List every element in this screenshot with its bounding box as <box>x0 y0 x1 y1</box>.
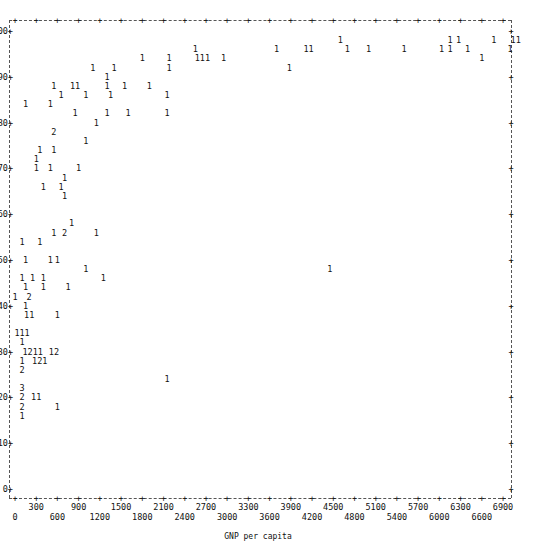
x-tick-mark-bottom: + <box>309 494 314 503</box>
x-tick-mark-top: + <box>331 16 336 25</box>
x-tick-label: 1500 <box>111 503 131 512</box>
data-point: 1 <box>20 237 25 246</box>
x-tick-mark-bottom: + <box>97 494 102 503</box>
data-point: 1 <box>41 182 46 191</box>
x-tick-mark-bottom: + <box>140 494 145 503</box>
data-point: 1 <box>164 109 169 118</box>
data-point: 1 <box>366 45 371 54</box>
data-point: 121 <box>32 356 47 365</box>
x-tick-label: 3900 <box>281 503 301 512</box>
data-point: 11 <box>70 81 80 90</box>
data-point: 1 <box>122 81 127 90</box>
data-point: 1 <box>147 81 152 90</box>
x-tick-label: 6000 <box>429 513 449 522</box>
x-tick-mark-top: + <box>479 16 484 25</box>
y-tick-mark-right: + <box>508 393 513 402</box>
x-tick-mark-bottom: + <box>479 494 484 503</box>
plot-top-border <box>9 20 511 21</box>
data-point: 1 <box>62 191 67 200</box>
x-tick-mark-top: + <box>394 16 399 25</box>
data-point: 1 <box>140 54 145 63</box>
x-tick-label: 3000 <box>217 513 237 522</box>
data-point: 1 <box>51 228 56 237</box>
x-axis-label: GNP per capita <box>224 532 291 541</box>
x-tick-label: 6300 <box>450 503 470 512</box>
data-point: 1 <box>69 219 74 228</box>
x-tick-label: 3300 <box>238 503 258 512</box>
data-point: 2 <box>20 365 25 374</box>
x-tick-label: 600 <box>50 513 65 522</box>
data-point: 1 <box>83 136 88 145</box>
x-tick-mark-bottom: + <box>55 494 60 503</box>
x-tick-label: 6600 <box>472 513 492 522</box>
data-point: 1 <box>23 256 28 265</box>
x-tick-mark-top: + <box>309 16 314 25</box>
data-point: 1 <box>48 164 53 173</box>
data-point: 1 <box>30 274 35 283</box>
data-point: 1 <box>274 45 279 54</box>
data-point: 1 <box>90 63 95 72</box>
data-point: 2 <box>51 127 56 136</box>
x-tick-mark-top: + <box>203 16 208 25</box>
data-point: 1 <box>51 81 56 90</box>
data-point: 1 <box>41 283 46 292</box>
x-tick-mark-top: + <box>352 16 357 25</box>
data-point: 1 <box>55 256 60 265</box>
data-point: 11 <box>31 393 41 402</box>
x-tick-mark-top: + <box>225 16 230 25</box>
y-tick-label: 40+ <box>0 301 13 310</box>
x-tick-mark-bottom: + <box>182 494 187 503</box>
data-point: 1 <box>164 91 169 100</box>
data-point: 1 <box>126 109 131 118</box>
y-tick-mark-right: + <box>508 118 513 127</box>
data-point: 11 <box>24 310 34 319</box>
y-tick-mark-right: + <box>508 164 513 173</box>
data-point: 1 <box>51 146 56 155</box>
x-tick-mark-bottom: + <box>437 494 442 503</box>
data-point: 1 <box>401 45 406 54</box>
x-tick-label: 300 <box>29 503 44 512</box>
x-tick-label: 4500 <box>323 503 343 512</box>
data-point: 1 <box>20 411 25 420</box>
y-tick-label: 30+ <box>0 347 13 356</box>
data-point: 1 <box>37 237 42 246</box>
data-point: 1 <box>287 63 292 72</box>
data-point: 1 <box>479 54 484 63</box>
y-tick-label: 20+ <box>0 393 13 402</box>
data-point: 12 <box>49 347 59 356</box>
x-tick-mark-top: + <box>12 16 17 25</box>
data-point: 1 <box>327 265 332 274</box>
data-point: 11 <box>303 45 313 54</box>
data-point: 1 <box>83 91 88 100</box>
data-point: 1 <box>101 274 106 283</box>
data-point: 1 <box>48 100 53 109</box>
data-point: 1 <box>65 283 70 292</box>
x-tick-mark-bottom: + <box>394 494 399 503</box>
x-tick-mark-top: + <box>458 16 463 25</box>
data-point: 1 <box>94 118 99 127</box>
data-point: 1 <box>73 109 78 118</box>
data-point: 1 <box>465 45 470 54</box>
x-tick-mark-top: + <box>34 16 39 25</box>
x-tick-mark-bottom: + <box>267 494 272 503</box>
x-tick-label: 2700 <box>196 503 216 512</box>
x-tick-mark-top: + <box>119 16 124 25</box>
data-point: 2 <box>62 228 67 237</box>
data-point: 1 <box>94 228 99 237</box>
y-tick-mark-right: + <box>508 210 513 219</box>
x-tick-label: 4200 <box>302 513 322 522</box>
x-tick-label: 6900 <box>493 503 513 512</box>
y-tick-mark-right: + <box>508 301 513 310</box>
data-point: 1 <box>48 256 53 265</box>
data-point: 1 <box>23 100 28 109</box>
x-tick-mark-top: + <box>267 16 272 25</box>
data-point: 1 <box>108 91 113 100</box>
x-tick-mark-top: + <box>373 16 378 25</box>
x-tick-label: 1800 <box>132 513 152 522</box>
x-tick-label: 4800 <box>344 513 364 522</box>
y-tick-label: 0+ <box>3 485 13 494</box>
data-point: 1 <box>83 265 88 274</box>
ascii-scatter-plot: ++++++++++++++++++++++++++++++++++++++++… <box>0 0 536 553</box>
y-tick-mark-right: + <box>508 256 513 265</box>
plot-bottom-border <box>9 498 511 499</box>
